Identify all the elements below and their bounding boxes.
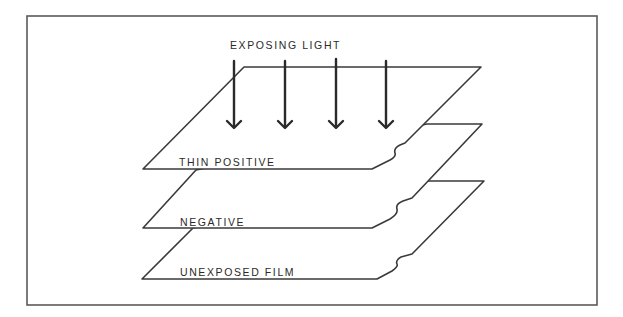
negative-label: NEGATIVE <box>180 216 245 228</box>
exposing-light-label: EXPOSING LIGHT <box>230 39 341 51</box>
thin-positive-label: THIN POSITIVE <box>179 156 276 168</box>
contact-printing-diagram: UNEXPOSED FILM NEGATIVE THIN POSITIVE EX… <box>0 0 623 317</box>
unexposed-film-label: UNEXPOSED FILM <box>180 266 295 278</box>
